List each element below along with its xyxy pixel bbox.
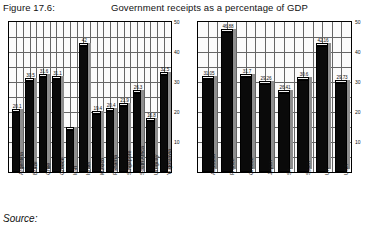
x-axis-category-label: Brazil xyxy=(32,162,38,175)
x-axis-category-label: Chile xyxy=(45,163,51,175)
bar-value-label: 20.4 xyxy=(104,103,119,108)
bar-side-3d xyxy=(328,43,331,169)
y-axis-tick-label: 40 xyxy=(174,49,180,55)
bar-side-3d xyxy=(61,76,64,169)
x-axis-category-label: Singapore xyxy=(126,150,132,175)
bar-side-3d xyxy=(34,78,37,169)
bar-value-label: 31.1 xyxy=(50,71,65,76)
bar-face xyxy=(259,84,271,171)
bar-value-label: 30.6 xyxy=(295,72,313,77)
y-axis-tick-label: 50 xyxy=(355,19,361,25)
bar-value-label: 20.1 xyxy=(10,104,25,109)
figure-title: Government receipts as a percentage of G… xyxy=(111,2,308,13)
bar xyxy=(39,77,48,171)
bar-top-3d xyxy=(278,90,290,93)
x-axis-labels-right: AustraliaFranceGreeceJapanSASpainUKUSA xyxy=(197,175,352,227)
bar-face xyxy=(221,32,233,172)
bar-face xyxy=(79,46,88,171)
bar-top-3d xyxy=(240,74,252,77)
bar-value-label: 26.41 xyxy=(276,85,294,90)
bar xyxy=(297,80,309,171)
bar-side-3d xyxy=(233,29,236,169)
bar-face xyxy=(297,80,309,171)
figure-page: Figure 17.6: Government receipts as a pe… xyxy=(0,0,380,229)
x-axis-category-label: Greece xyxy=(248,157,254,175)
bar-face xyxy=(278,93,290,172)
bar-top-3d xyxy=(316,43,328,46)
bar-top-3d xyxy=(79,43,88,46)
x-axis-category-label: Uruguay xyxy=(153,155,159,175)
y-axis-tick-label: 10 xyxy=(355,139,361,145)
bar-top-3d xyxy=(160,72,169,75)
x-axis-category-label: France xyxy=(229,158,235,175)
bar-value-label: 31.6 xyxy=(37,69,52,74)
bar-top-3d xyxy=(259,81,271,84)
bar-side-3d xyxy=(47,74,50,168)
bar-top-3d xyxy=(146,118,155,121)
chart-developing-countries: 20.130.531.631.14219.420.421.926.316.832… xyxy=(0,18,190,210)
x-axis-category-label: Spain xyxy=(305,161,311,175)
bar xyxy=(335,83,347,172)
y-axis-tick-label: 30 xyxy=(174,79,180,85)
x-axis-category-label: Greece xyxy=(59,157,65,175)
bar-top-3d xyxy=(92,111,101,114)
bars-left: 20.130.531.631.14219.420.421.926.316.832… xyxy=(9,22,170,171)
bar-top-3d xyxy=(12,109,21,112)
bar-side-3d xyxy=(252,74,255,169)
bar-top-3d xyxy=(221,29,233,32)
x-axis-category-label: Israel xyxy=(85,162,91,175)
bar-top-3d xyxy=(133,90,142,93)
bar-face xyxy=(316,46,328,172)
y-axis-tick-label: 40 xyxy=(355,49,361,55)
figure-number-label: Figure 17.6: xyxy=(3,2,55,13)
x-axis-category-label: SA xyxy=(286,168,292,175)
bar-top-3d xyxy=(25,78,34,81)
bar-value-label: 19.4 xyxy=(90,106,105,111)
bar-value-label: 42 xyxy=(77,38,92,43)
bar-face xyxy=(335,83,347,172)
bar xyxy=(316,46,328,172)
x-axis-category-label: Australia xyxy=(210,154,216,175)
bar-face xyxy=(39,77,48,171)
bar xyxy=(259,84,271,171)
bar-side-3d xyxy=(347,80,350,169)
y-axis-tick-label: 20 xyxy=(355,109,361,115)
y-axis-tick-label: 30 xyxy=(355,79,361,85)
bar-value-label: 29.73 xyxy=(333,75,351,80)
bar-value-label: 29.26 xyxy=(257,76,275,81)
x-axis-category-label: South Africa xyxy=(139,146,145,175)
bar-value-label: 30.5 xyxy=(23,73,38,78)
bar-side-3d xyxy=(309,77,312,168)
bar-value-label: 31.7 xyxy=(238,69,256,74)
bar-side-3d xyxy=(271,81,274,168)
bar xyxy=(79,46,88,171)
bar-top-3d xyxy=(106,108,115,111)
x-axis-category-label: Mexico xyxy=(99,158,105,175)
y-axis-tick-label: 20 xyxy=(174,109,180,115)
bar-top-3d xyxy=(119,103,128,106)
x-axis-category-label: USA xyxy=(343,164,349,175)
bar-side-3d xyxy=(74,127,77,169)
bar-top-3d xyxy=(335,80,347,83)
y-axis-tick-label: 10 xyxy=(174,139,180,145)
figure-header: Figure 17.6: Government receipts as a pe… xyxy=(0,0,380,18)
x-axis-category-label: Japan xyxy=(267,160,273,175)
x-axis-category-label: Panama xyxy=(112,155,118,175)
x-axis-category-label: UK xyxy=(324,168,330,176)
bar xyxy=(25,81,34,172)
x-axis-category-label: Iran xyxy=(72,166,78,175)
bar-face xyxy=(25,81,34,172)
bar-top-3d xyxy=(297,77,309,80)
bar-value-label: 32.5 xyxy=(158,67,173,72)
bar-top-3d xyxy=(52,76,61,79)
bar-value-label: 26.3 xyxy=(131,85,146,90)
bar-top-3d xyxy=(39,74,48,77)
bar-value-label: 42.16 xyxy=(314,38,332,43)
bar-value-label: 46.88 xyxy=(219,24,237,29)
x-axis-category-label: Yugoslavia xyxy=(166,149,172,175)
bar xyxy=(278,93,290,172)
bar-top-3d xyxy=(66,127,75,130)
source-label: Source: xyxy=(3,213,37,224)
bar xyxy=(221,32,233,172)
bar-side-3d xyxy=(290,90,293,169)
